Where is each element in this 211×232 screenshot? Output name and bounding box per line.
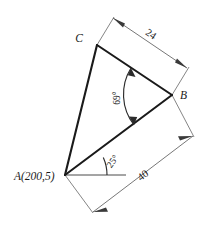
figure-canvas: 24 40 69°: [0, 0, 211, 232]
geometry-figure: 24 40 69°: [0, 0, 211, 232]
angle-marker-b: 69°: [112, 68, 137, 125]
dimension-24-arrow-end: [175, 58, 187, 68]
vertex-label-a: A(200,5): [13, 170, 55, 183]
dimension-24-arrow-start: [113, 18, 125, 28]
extension-line-c: [97, 17, 114, 45]
vertex-label-c: C: [75, 32, 83, 44]
triangle-abc: [65, 45, 172, 175]
edge-cb: [97, 45, 172, 95]
dimension-40-extensions: [65, 95, 194, 213]
dimension-40-arrow-start: [93, 208, 108, 213]
angle-a-label: 25°: [105, 153, 121, 170]
dimension-40: 40: [93, 136, 193, 212]
vertex-label-b: B: [180, 89, 187, 101]
dimension-line-24: [113, 18, 187, 68]
dimension-24: 24: [113, 18, 187, 68]
angle-arc-b: [123, 68, 134, 125]
dimension-40-arrow-end: [178, 136, 193, 141]
extension-line-a: [65, 175, 93, 213]
dimension-24-extensions: [97, 17, 189, 95]
angle-marker-a: 25°: [103, 153, 120, 175]
extension-line-b-lower: [172, 95, 194, 137]
angle-b-label: 69°: [112, 91, 122, 105]
